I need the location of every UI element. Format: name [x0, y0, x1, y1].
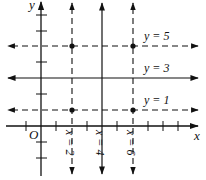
- line-y-3: y = 3: [8, 61, 198, 78]
- line-y-1: y = 1: [8, 93, 198, 110]
- line-x-4: x = 4: [93, 3, 107, 174]
- point-6-1: [130, 107, 135, 112]
- point-2-1: [69, 107, 74, 112]
- coordinate-diagram: x y O y = 5 y = 3 y = 1 x = 2 x = 4: [0, 0, 206, 180]
- line-x-2-label: x = 2: [63, 129, 77, 155]
- line-y-1-label: y = 1: [143, 93, 169, 107]
- x-axis-label: x: [193, 128, 200, 143]
- point-6-5: [130, 43, 135, 48]
- point-2-5: [69, 43, 74, 48]
- origin-label: O: [29, 127, 39, 142]
- line-y-3-label: y = 3: [143, 61, 169, 75]
- line-x-2: x = 2: [63, 3, 77, 174]
- line-x-6-label: x = 6: [124, 129, 138, 155]
- y-axis-label: y: [27, 0, 35, 12]
- line-x-6: x = 6: [124, 3, 138, 174]
- line-y-5: y = 5: [8, 29, 198, 46]
- line-y-5-label: y = 5: [143, 29, 169, 43]
- y-axis: y: [27, 0, 47, 176]
- line-x-4-label: x = 4: [93, 129, 107, 155]
